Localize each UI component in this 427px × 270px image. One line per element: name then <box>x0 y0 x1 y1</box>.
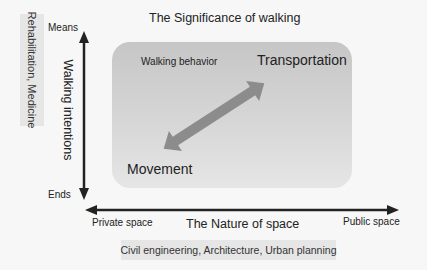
horizontal-axis-left-label: Private space <box>92 217 153 228</box>
walking-behavior-arrow <box>157 73 271 158</box>
movement-label: Movement <box>127 161 192 177</box>
horizontal-discipline-label: Civil engineering, Architecture, Urban p… <box>121 240 336 260</box>
arrowhead-up-icon <box>79 31 89 43</box>
horizontal-axis-arrow <box>85 205 399 215</box>
horizontal-axis-right-label: Public space <box>343 216 400 227</box>
horizontal-axis-title: The Nature of space <box>186 217 299 231</box>
transportation-label: Transportation <box>257 52 347 68</box>
vertical-axis-arrow <box>79 31 89 200</box>
arrowhead-right-icon <box>387 205 399 215</box>
arrowhead-down-icon <box>79 188 89 200</box>
arrowhead-left-icon <box>85 205 97 215</box>
walking-behavior-label: Walking behavior <box>141 56 217 67</box>
